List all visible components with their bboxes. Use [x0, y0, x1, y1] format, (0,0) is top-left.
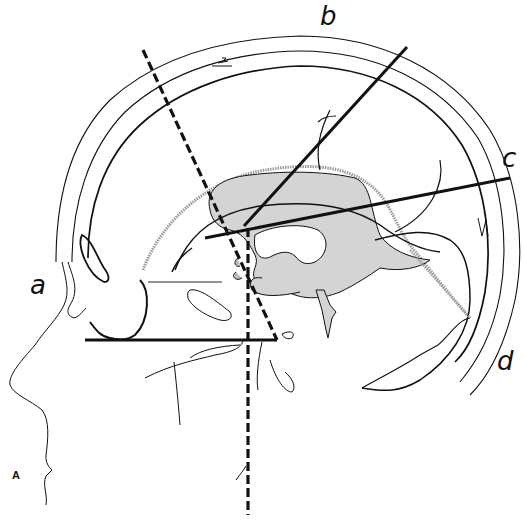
anatomical-diagram: a b c d A	[0, 0, 524, 523]
label-d: d	[497, 348, 514, 374]
label-b: b	[320, 3, 337, 29]
label-a: a	[30, 272, 46, 298]
panel-label: A	[12, 469, 20, 481]
diagram-svg	[0, 0, 524, 523]
fourth-ventricle	[316, 290, 336, 338]
palate	[145, 340, 243, 378]
orbit-contour	[90, 280, 147, 339]
curl-near-line	[282, 332, 293, 339]
spine-line	[257, 342, 294, 392]
small-tick-lower	[236, 466, 246, 480]
sphenoid-sinus	[188, 290, 232, 321]
pituitary-region	[234, 258, 242, 279]
label-c: c	[502, 145, 516, 171]
pharynx-line	[174, 362, 180, 425]
cerebellum-contour	[362, 318, 470, 388]
frontal-sinus	[80, 235, 108, 282]
nasal-bone	[68, 262, 86, 318]
reference-line-d	[410, 250, 470, 318]
